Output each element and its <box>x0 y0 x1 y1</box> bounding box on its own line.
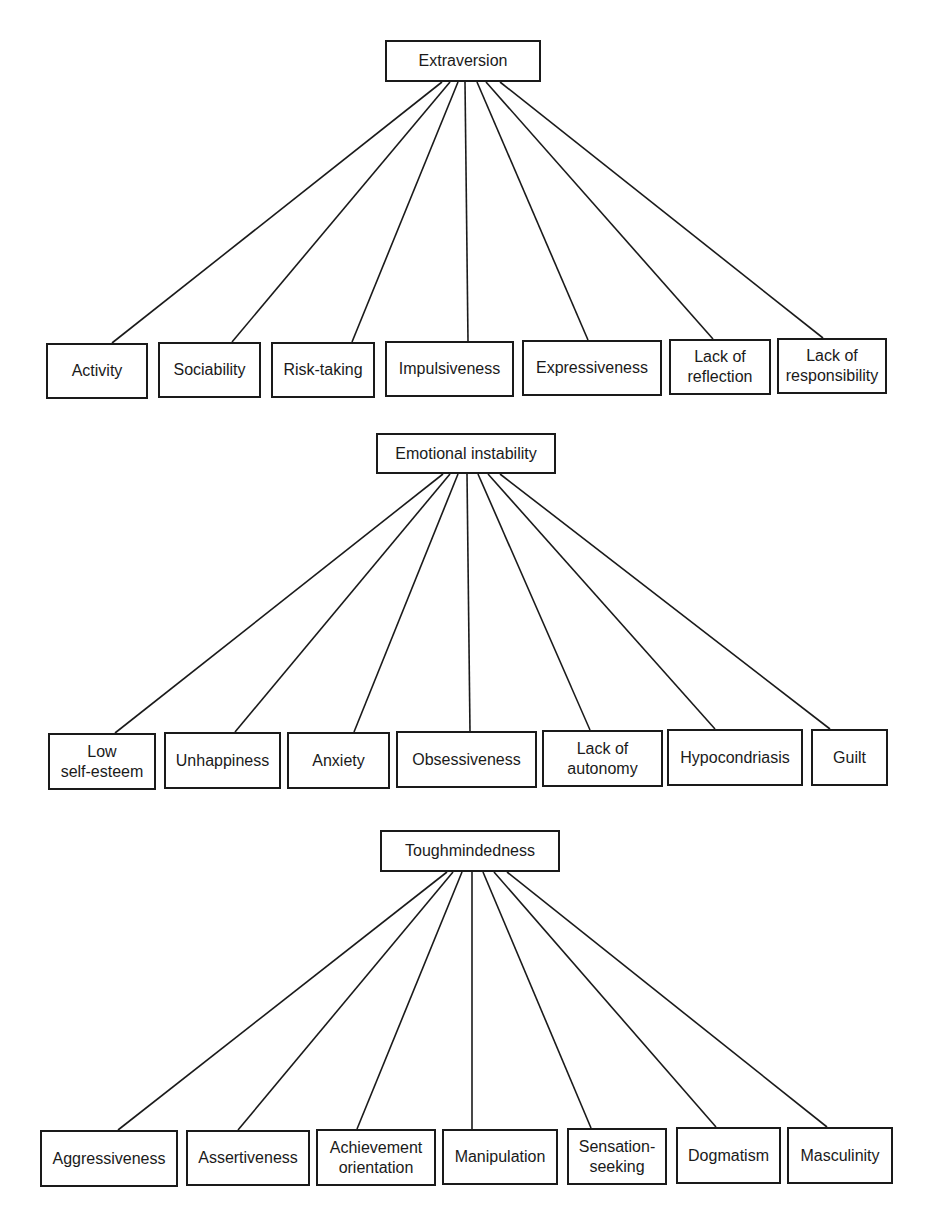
connector-line <box>115 474 443 733</box>
trait-box: Lack of responsibility <box>777 338 887 394</box>
trait-box: Aggressiveness <box>40 1130 178 1187</box>
trait-box: Masculinity <box>787 1127 893 1184</box>
connector-line <box>477 82 588 340</box>
connector-line <box>352 82 458 342</box>
trait-box: Sensation- seeking <box>567 1128 667 1185</box>
connector-lines <box>0 0 935 1218</box>
connector-line <box>494 872 716 1127</box>
connector-line <box>112 82 442 343</box>
connector-line <box>486 82 713 339</box>
connector-line <box>238 872 453 1130</box>
connector-line <box>465 82 468 341</box>
connector-line <box>478 474 590 730</box>
trait-box: Low self-esteem <box>48 733 156 790</box>
connector-line <box>488 474 715 729</box>
trait-box: Anxiety <box>287 732 390 789</box>
trait-box: Lack of reflection <box>669 339 771 395</box>
trait-box: Assertiveness <box>186 1130 310 1186</box>
connector-line <box>467 474 470 731</box>
trait-box: Unhappiness <box>164 732 281 789</box>
connector-line <box>118 872 447 1130</box>
trait-box: Dogmatism <box>676 1127 781 1184</box>
emotional-instability-factor-box: Emotional instability <box>376 433 556 474</box>
trait-hierarchy-diagram: ExtraversionActivitySociabilityRisk-taki… <box>0 0 935 1218</box>
connector-line <box>500 474 830 729</box>
connector-line <box>500 82 823 338</box>
trait-box: Lack of autonomy <box>542 730 663 787</box>
extraversion-factor-box: Extraversion <box>385 40 541 82</box>
trait-box: Risk-taking <box>271 342 375 398</box>
connector-line <box>232 82 450 342</box>
connector-line <box>507 872 827 1127</box>
connector-line <box>483 872 591 1128</box>
trait-box: Manipulation <box>442 1129 558 1185</box>
toughmindedness-factor-box: Toughmindedness <box>380 830 560 872</box>
trait-box: Guilt <box>811 729 888 786</box>
trait-box: Impulsiveness <box>385 341 514 397</box>
trait-box: Activity <box>46 343 148 399</box>
trait-box: Sociability <box>158 342 261 398</box>
trait-box: Hypocondriasis <box>667 729 803 786</box>
connector-line <box>235 474 450 732</box>
trait-box: Obsessiveness <box>396 731 537 788</box>
connector-line <box>354 474 458 732</box>
trait-box: Expressiveness <box>522 340 662 396</box>
connector-line <box>357 872 462 1129</box>
trait-box: Achievement orientation <box>316 1129 436 1186</box>
